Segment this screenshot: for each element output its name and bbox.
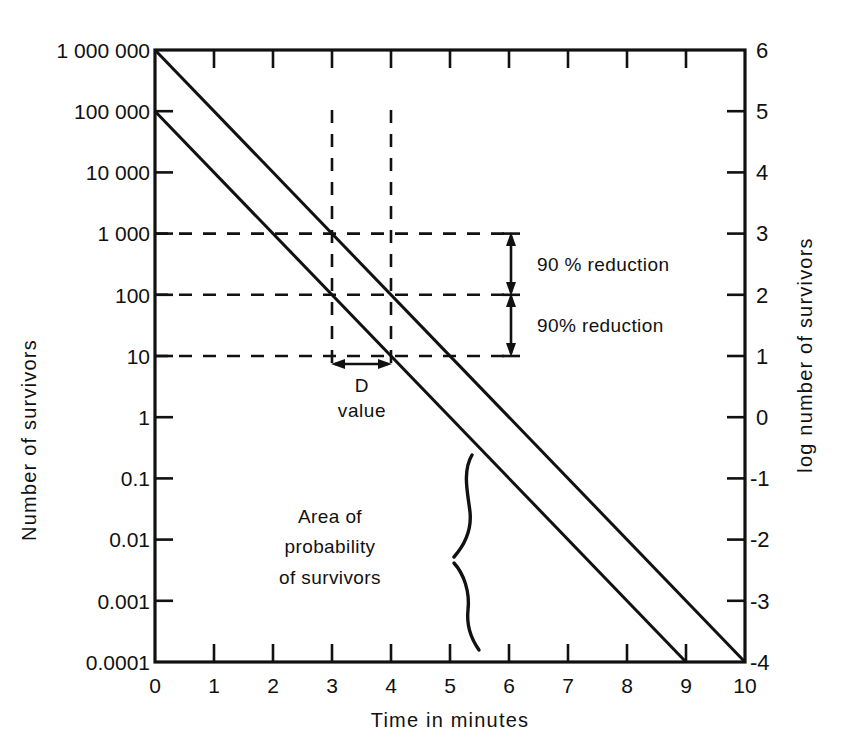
probability-brace-upper <box>454 455 472 557</box>
guide-lines-vertical <box>332 110 391 370</box>
probability-area-line1: Area of <box>298 506 362 527</box>
y2tick-label-1: 1 <box>756 344 768 369</box>
y2tick-label-0: 0 <box>756 405 768 430</box>
xtick-label-3: 3 <box>326 674 338 697</box>
probability-brace-lower <box>454 563 479 650</box>
xtick-label-7: 7 <box>562 674 574 697</box>
left-axis-tick-labels: 1 000 000 100 000 10 000 1 000 100 10 1 … <box>57 39 150 674</box>
xtick-label-4: 4 <box>385 674 397 697</box>
survivor-curve-chart: 1 000 000 100 000 10 000 1 000 100 10 1 … <box>0 0 847 750</box>
probability-area-label: Area of probability of survivors <box>279 506 381 588</box>
ytick-label-0.1: 0.1 <box>121 467 150 490</box>
y2tick-label-m4: -4 <box>750 650 770 675</box>
data-series <box>155 50 745 662</box>
d-value-arrow <box>331 359 392 369</box>
ytick-label-1000: 1 000 <box>97 222 150 245</box>
d-value-label-line1: D <box>355 375 369 396</box>
y2tick-label-5: 5 <box>756 99 768 124</box>
probability-brace <box>454 455 479 650</box>
xtick-label-2: 2 <box>267 674 279 697</box>
ytick-label-100000: 100 000 <box>74 100 150 123</box>
ytick-label-0.01: 0.01 <box>109 528 150 551</box>
xtick-label-5: 5 <box>444 674 456 697</box>
right-axis-ticks <box>727 111 745 601</box>
xtick-label-1: 1 <box>208 674 220 697</box>
probability-area-line3: of survivors <box>279 567 381 588</box>
xtick-label-6: 6 <box>503 674 515 697</box>
ytick-label-1: 1 <box>138 406 150 429</box>
bottom-axis-ticks <box>214 644 686 662</box>
x-axis-tick-labels: 0 1 2 3 4 5 6 7 8 9 10 <box>149 674 757 697</box>
series-upper-survivor-curve <box>155 50 745 662</box>
reduction-label-upper: 90 % reduction <box>537 254 669 275</box>
reduction-arrows <box>502 232 520 357</box>
y2tick-label-2: 2 <box>756 283 768 308</box>
d-value-label-line2: value <box>338 400 386 421</box>
y2tick-label-4: 4 <box>756 160 768 185</box>
ytick-label-10: 10 <box>127 345 150 368</box>
y2tick-label-m2: -2 <box>750 527 770 552</box>
y2-axis-title: log number of survivors <box>794 237 816 472</box>
xtick-label-0: 0 <box>149 674 161 697</box>
ytick-label-0.001: 0.001 <box>97 590 150 613</box>
xtick-label-9: 9 <box>680 674 692 697</box>
right-axis-tick-labels: 6 5 4 3 2 1 0 -1 -2 -3 -4 <box>750 38 770 675</box>
ytick-label-0.0001: 0.0001 <box>86 651 150 674</box>
y2tick-label-6: 6 <box>756 38 768 63</box>
x-axis-title: Time in minutes <box>371 709 529 731</box>
ytick-label-1000000: 1 000 000 <box>57 39 150 62</box>
figure-container: 1 000 000 100 000 10 000 1 000 100 10 1 … <box>0 0 847 750</box>
y2tick-label-m1: -1 <box>750 466 770 491</box>
reduction-label-lower: 90% reduction <box>537 315 664 336</box>
top-axis-ticks <box>214 50 686 68</box>
ytick-label-10000: 10 000 <box>86 161 150 184</box>
series-lower-survivor-curve <box>155 111 686 662</box>
y-axis-title: Number of survivors <box>18 339 40 541</box>
xtick-label-8: 8 <box>621 674 633 697</box>
xtick-label-10: 10 <box>733 674 756 697</box>
y2tick-label-3: 3 <box>756 221 768 246</box>
ytick-label-100: 100 <box>115 284 150 307</box>
y2tick-label-m3: -3 <box>750 589 770 614</box>
probability-area-line2: probability <box>284 536 375 557</box>
